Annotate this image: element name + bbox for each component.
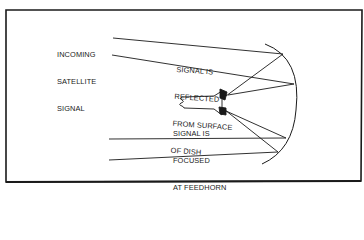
reflected-label-line-2: REFLECTED — [174, 92, 234, 105]
focused-signal-label: SIGNAL IS FOCUSED AT FEEDHORN — [173, 111, 226, 193]
reflected-label-line-1: SIGNAL IS — [176, 65, 236, 78]
incoming-signal-label: INCOMING SATELLITE SIGNAL — [57, 32, 96, 122]
focused-label-line-3: AT FEEDHORN — [173, 183, 226, 192]
parabolic-dish — [262, 44, 297, 164]
focused-label-line-1: SIGNAL IS — [173, 129, 226, 138]
focused-label-line-2: FOCUSED — [173, 156, 226, 165]
incoming-label-line-1: INCOMING — [57, 50, 96, 59]
incoming-label-line-2: SATELLITE — [57, 77, 96, 86]
incoming-label-line-3: SIGNAL — [57, 104, 96, 113]
